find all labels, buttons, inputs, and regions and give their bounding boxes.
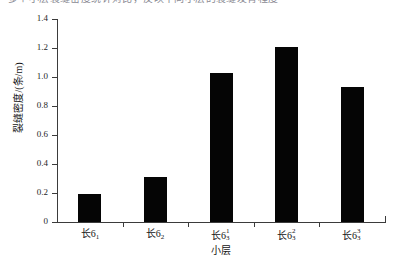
- y-axis-tick: [52, 222, 57, 223]
- bar: [341, 87, 364, 222]
- x-axis-tick: [254, 223, 255, 227]
- bar: [78, 194, 101, 222]
- x-axis-tick: [188, 223, 189, 227]
- bar: [144, 177, 167, 222]
- bar-chart-figure: 1.41.21.00.80.60.40.20 长61长62长613长623长63…: [0, 0, 395, 268]
- bar: [210, 73, 233, 222]
- y-axis-title: 裂缝密度/(条/m): [13, 38, 24, 158]
- x-axis-category-label: 长633: [307, 228, 395, 242]
- x-axis-line: [57, 222, 386, 223]
- x-axis-tick: [123, 223, 124, 227]
- x-axis-title: 小层: [0, 245, 395, 257]
- bars-layer: [0, 0, 395, 222]
- x-axis-title-text: 小层: [211, 245, 231, 257]
- y-axis-title-text: 裂缝密度/(条/m): [13, 63, 24, 133]
- x-axis-tick: [319, 223, 320, 227]
- bar: [275, 47, 298, 222]
